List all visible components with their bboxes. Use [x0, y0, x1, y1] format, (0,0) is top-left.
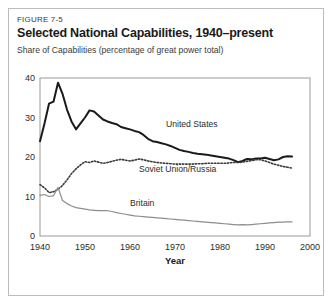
y-tick-label: 10: [25, 192, 35, 202]
line-chart: 010203040 1940195019601970198019902000 U…: [0, 0, 334, 305]
x-tick-label: 1980: [210, 242, 230, 252]
y-tick-label: 40: [25, 73, 35, 83]
series-inline-labels: United StatesSoviet Union/RussiaBritain: [130, 119, 218, 208]
x-axis-title: Year: [165, 255, 185, 266]
series-label: United States: [166, 119, 218, 129]
series-label: Soviet Union/Russia: [139, 164, 217, 174]
x-tick-label: 1960: [120, 242, 140, 252]
x-tick-label: 2000: [300, 242, 320, 252]
y-tick-label: 20: [25, 152, 35, 162]
series-lines: [40, 83, 292, 225]
chart-plot-area: 010203040 1940195019601970198019902000 U…: [0, 0, 334, 305]
series-label: Britain: [130, 198, 155, 208]
series-line: [40, 187, 292, 225]
x-tick-label: 1940: [30, 242, 50, 252]
x-axis-tick-labels: 1940195019601970198019902000: [30, 242, 320, 252]
y-tick-label: 0: [30, 231, 35, 241]
x-tick-label: 1950: [75, 242, 95, 252]
plot-frame: [40, 78, 310, 236]
y-axis-tick-labels: 010203040: [25, 73, 35, 241]
x-tick-label: 1990: [255, 242, 275, 252]
x-tick-label: 1970: [165, 242, 185, 252]
y-tick-label: 30: [25, 113, 35, 123]
